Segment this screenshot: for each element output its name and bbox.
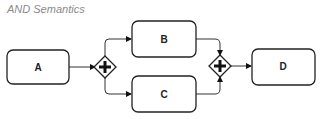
edge-c-join [196,77,220,94]
task-c-label: C [160,89,167,100]
task-b[interactable]: B [132,21,196,57]
task-d-label: D [279,61,286,72]
task-a[interactable]: A [7,50,69,84]
edge-split-c [105,77,131,94]
bpmn-diagram: A B C D [0,0,320,119]
edge-b-join [196,39,220,55]
parallel-split-gateway[interactable] [94,56,116,78]
task-d[interactable]: D [252,49,315,85]
task-a-label: A [34,62,41,73]
parallel-join-gateway[interactable] [209,55,231,77]
task-b-label: B [160,34,167,45]
task-c[interactable]: C [132,76,196,112]
edge-split-b [105,39,131,57]
